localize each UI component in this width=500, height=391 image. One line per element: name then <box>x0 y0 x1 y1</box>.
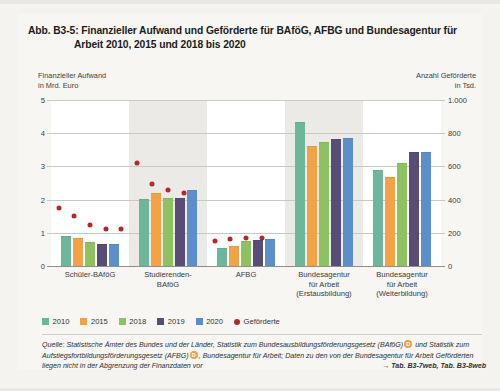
category-label-line: Bundesagentur <box>285 270 363 280</box>
bar-2015 <box>151 193 162 266</box>
gefoerderte-marker <box>166 187 171 192</box>
gefoerderte-marker <box>72 214 77 219</box>
bar-2010 <box>61 236 72 266</box>
source-text-part1: Quelle: Statistische Ämter des Bundes un… <box>42 341 403 349</box>
legend-swatch-icon <box>157 318 164 325</box>
plot-area: 00120024003600480051.000 <box>51 100 441 266</box>
bar-2018 <box>319 142 330 267</box>
legend-item-2018[interactable]: 2018 <box>119 317 146 326</box>
bar-2019 <box>97 244 108 266</box>
left-axis-caption-line1: Finanzieller Aufwand <box>38 71 106 81</box>
y-axis-tick-left: 1 <box>41 228 45 237</box>
legend-label: 2018 <box>129 317 146 326</box>
category-label: Studierenden-BAföG <box>129 270 207 299</box>
y-axis-tick-right: 400 <box>448 195 461 204</box>
category-label-line: (Weiterbildung) <box>363 289 441 299</box>
legend-item-2010[interactable]: 2010 <box>42 317 69 326</box>
legend-label: 2019 <box>168 317 185 326</box>
category-label-line: BAföG <box>129 280 207 290</box>
bar-group <box>51 100 129 266</box>
bar-2010 <box>139 199 150 266</box>
legend-swatch-icon <box>80 318 87 325</box>
y-axis-tick-left: 4 <box>41 129 45 138</box>
y-axis-tick-left: 5 <box>41 96 45 105</box>
bar-2020 <box>265 239 276 266</box>
category-label: Bundesagenturfür Arbeit(Weiterbildung) <box>363 270 441 299</box>
y-axis-tick-left: 3 <box>41 162 45 171</box>
bar-2010 <box>373 170 384 266</box>
gefoerderte-marker <box>56 205 61 210</box>
gefoerderte-marker <box>119 227 124 232</box>
bar-2019 <box>331 139 342 266</box>
right-axis-caption: Anzahl Geförderte in Tsd. <box>416 71 476 90</box>
category-label-line: Schüler-BAföG <box>51 270 129 280</box>
bar-2010 <box>217 248 228 266</box>
bar-2018 <box>85 242 96 266</box>
legend-swatch-icon <box>42 318 49 325</box>
bar-2019 <box>409 152 420 266</box>
bar-group <box>207 100 285 266</box>
gefoerderte-marker <box>150 182 155 187</box>
category-label-line: Studierenden- <box>129 270 207 280</box>
category-label: Bundesagenturfür Arbeit(Erstausbildung) <box>285 270 363 299</box>
right-axis-caption-line1: Anzahl Geförderte <box>416 71 476 81</box>
bar-group <box>285 100 363 266</box>
gefoerderte-marker <box>259 236 264 241</box>
left-axis-caption: Finanzieller Aufwand in Mrd. Euro <box>38 71 106 90</box>
y-axis-tick-right: 0 <box>448 262 452 271</box>
figure-page: Abb. B3-5: Finanzieller Aufwand und Gefö… <box>0 0 500 391</box>
bar-2015 <box>385 177 396 266</box>
bar-2015 <box>229 246 240 266</box>
legend-swatch-icon <box>196 318 203 325</box>
bar-2018 <box>241 241 252 266</box>
footnote-marker-1[interactable]: D <box>404 340 412 348</box>
y-axis-tick-right: 200 <box>448 228 461 237</box>
y-axis-tick-right: 800 <box>448 129 461 138</box>
figure-title: Abb. B3-5: Finanzieller Aufwand und Gefö… <box>28 24 476 52</box>
bar-2010 <box>295 122 306 266</box>
legend-item-2019[interactable]: 2019 <box>157 317 184 326</box>
category-label-line: für Arbeit <box>363 280 441 290</box>
y-axis-tick-left: 0 <box>41 262 45 271</box>
figure-card: Abb. B3-5: Finanzieller Aufwand und Gefö… <box>18 14 482 369</box>
bar-2015 <box>73 238 84 266</box>
legend-item-2020[interactable]: 2020 <box>196 317 223 326</box>
category-label: Schüler-BAföG <box>51 270 129 299</box>
gridline <box>47 266 445 267</box>
table-reference-link[interactable]: → Tab. B3-7web, Tab. B3-8web <box>382 361 486 372</box>
legend-swatch-icon <box>119 318 126 325</box>
category-label: AFBG <box>207 270 285 299</box>
figure-title-line1: Abb. B3-5: Finanzieller Aufwand und Gefö… <box>28 25 457 36</box>
legend-item-2015[interactable]: 2015 <box>80 317 107 326</box>
gefoerderte-marker <box>244 236 249 241</box>
gefoerderte-marker <box>228 237 233 242</box>
legend-label: 2020 <box>206 317 223 326</box>
bar-groups <box>51 100 441 266</box>
category-label-line: AFBG <box>207 270 285 280</box>
gefoerderte-marker <box>134 161 139 166</box>
category-label-line: für Arbeit <box>285 280 363 290</box>
bar-2020 <box>187 190 198 266</box>
bar-2020 <box>109 244 120 266</box>
category-label-line: Bundesagentur <box>363 270 441 280</box>
y-axis-tick-right: 600 <box>448 162 461 171</box>
gefoerderte-marker <box>212 239 217 244</box>
bar-group <box>129 100 207 266</box>
bar-2020 <box>343 138 354 266</box>
bar-2019 <box>175 198 186 266</box>
bar-2018 <box>397 163 408 266</box>
chart-legend: 20102015201820192020Geförderte <box>42 317 280 326</box>
gefoerderte-marker <box>88 223 93 228</box>
category-labels: Schüler-BAföGStudierenden-BAföGAFBGBunde… <box>51 270 441 299</box>
bar-group <box>363 100 441 266</box>
right-axis-caption-line2: in Tsd. <box>416 81 476 91</box>
legend-dot-icon <box>234 319 240 325</box>
source-note: Quelle: Statistische Ämter des Bundes un… <box>42 340 486 372</box>
left-axis-caption-line2: in Mrd. Euro <box>38 81 106 91</box>
bar-2018 <box>163 198 174 266</box>
y-axis-tick-left: 2 <box>41 195 45 204</box>
legend-label: Geförderte <box>244 317 280 326</box>
legend-label: 2010 <box>53 317 70 326</box>
legend-item-gefoerderte[interactable]: Geförderte <box>234 317 280 326</box>
footnote-marker-2[interactable]: D <box>190 351 198 359</box>
